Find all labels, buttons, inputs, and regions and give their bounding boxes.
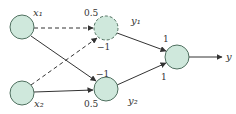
neural-network-diagram: x₁ x₂ y₁ y₂ y 0.5 −1 −1 0.5 1 1 [0, 0, 236, 114]
weight-x2-y1: −1 [97, 42, 110, 52]
label-y2: y₂ [127, 95, 138, 106]
node-output [165, 45, 189, 69]
weight-x1-y2: −1 [96, 69, 109, 79]
node-y2 [94, 77, 118, 101]
label-output-y: y [225, 51, 232, 62]
node-x1 [10, 15, 34, 39]
weight-y2-out: 1 [161, 72, 167, 82]
weight-x2-y2: 0.5 [84, 99, 99, 109]
edge-y2-out [117, 63, 166, 85]
weight-x1-y1: 0.5 [84, 8, 99, 18]
weight-y1-out: 1 [163, 34, 169, 44]
diagram-svg: x₁ x₂ y₁ y₂ y 0.5 −1 −1 0.5 1 1 [0, 0, 236, 114]
label-x2: x₂ [34, 98, 44, 109]
node-x2 [10, 81, 34, 105]
label-y1: y₁ [130, 15, 141, 26]
edge-x2-y1 [31, 38, 97, 85]
node-y1 [94, 16, 118, 40]
edge-y1-out [117, 33, 166, 51]
edge-x1-y2 [31, 36, 96, 81]
edge-x2-y2 [34, 90, 93, 92]
label-x1: x₁ [33, 7, 43, 18]
